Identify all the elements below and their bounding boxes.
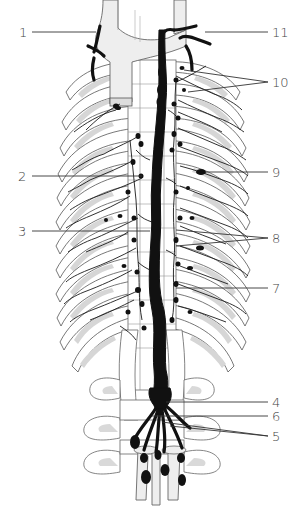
label-7: 7 (272, 282, 280, 295)
label-4: 4 (272, 396, 280, 409)
label-10: 10 (272, 76, 289, 89)
label-2: 2 (18, 170, 26, 183)
label-8: 8 (272, 232, 280, 245)
label-11: 11 (272, 26, 289, 39)
label-9: 9 (272, 166, 280, 179)
label-1: 1 (19, 26, 27, 39)
anatomical-diagram (0, 0, 302, 514)
label-5: 5 (272, 430, 280, 443)
label-3: 3 (18, 225, 26, 238)
left-ribs (56, 62, 140, 372)
label-6: 6 (272, 410, 280, 423)
